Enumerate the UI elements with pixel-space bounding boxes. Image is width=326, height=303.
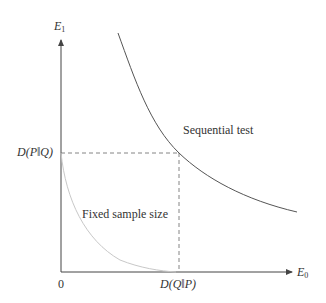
fixed-sample-size-label: Fixed sample size [82,208,168,220]
y-marker-label: D(P‖Q) [17,146,53,158]
sequential-test-label: Sequential test [183,124,253,136]
x-axis-label: E0 [297,266,308,280]
x-marker-label: D(Q‖P) [160,278,196,290]
y-axis-label: E1 [54,20,65,34]
x-axis-label-sub: 0 [304,271,308,280]
origin-label: 0 [58,278,64,290]
tradeoff-diagram: E1 E0 0 D(P‖Q) D(Q‖P) Sequential test Fi… [0,0,326,303]
y-axis-label-sub: 1 [61,25,65,34]
